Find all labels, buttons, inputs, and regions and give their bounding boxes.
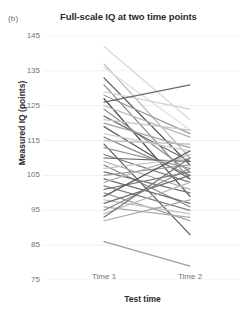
y-axis-tick-125: 125 [10,101,40,110]
y-axis-tick-105: 105 [10,170,40,179]
x-axis-tick-time-2: Time 2 [167,272,213,281]
y-axis-tick-75: 75 [10,275,40,284]
chart-title: Full-scale IQ at two time points [60,11,240,22]
y-axis-tick-115: 115 [10,136,40,145]
trajectory-line [104,46,190,119]
slope-chart-lines [44,36,244,280]
y-axis-tick-85: 85 [10,240,40,249]
y-axis-tick-135: 135 [10,66,40,75]
trajectory-line [104,116,190,161]
x-axis-tick-time-1: Time 1 [81,272,127,281]
figure-panel: (b) Full-scale IQ at two time points Mea… [0,0,250,317]
x-axis-label: Test time [40,294,245,304]
trajectory-line [104,99,190,197]
plot-area [44,36,244,280]
trajectory-line [104,85,190,102]
y-axis-tick-95: 95 [10,205,40,214]
panel-label: (b) [8,14,18,23]
y-axis-tick-145: 145 [10,31,40,40]
